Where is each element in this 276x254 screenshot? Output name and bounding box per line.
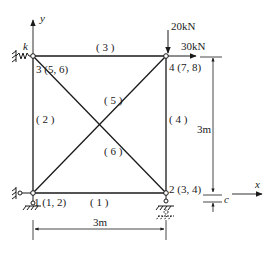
settlement-c: c [203,193,229,212]
node-1 [31,191,36,196]
element-label-1: ( 1 ) [90,196,109,209]
node-3 [31,54,36,59]
node-2 [164,191,169,196]
load-horizontal: 30kN [168,40,206,56]
node-label-4: 4 (7, 8) [169,61,201,74]
element-label-5: ( 5 ) [104,94,123,107]
node-4 [164,54,169,59]
element-label-6: ( 6 ) [104,145,123,158]
dimension-height-label: 3m [197,123,212,135]
element-label-4: ( 4 ) [169,113,188,126]
spring-label: k [23,40,29,52]
load-horizontal-label: 30kN [181,40,206,52]
node-label-1: 1 (1, 2) [34,196,66,209]
element-label-3: ( 3 ) [96,41,115,54]
y-axis: y [33,12,45,56]
settlement-label: c [224,193,229,205]
x-axis-label: x [254,178,260,190]
roller-support [156,195,174,220]
node-label-3: 3 (5, 6) [36,63,68,76]
spring-support: k [12,40,31,62]
dimension-height: 3m [197,57,222,192]
y-axis-label: y [39,12,45,24]
truss-diagram: y x ( 1 ) ( 2 ) ( 3 ) ( 4 ) ( 5 ) ( 6 ) … [0,0,276,254]
load-vertical-label: 20kN [171,20,196,32]
dimension-width-label: 3m [93,216,108,228]
dimension-width: 3m [33,216,166,240]
node-label-2: 2 (3, 4) [169,183,201,196]
element-label-2: ( 2 ) [36,113,55,126]
x-axis: x [232,178,262,194]
